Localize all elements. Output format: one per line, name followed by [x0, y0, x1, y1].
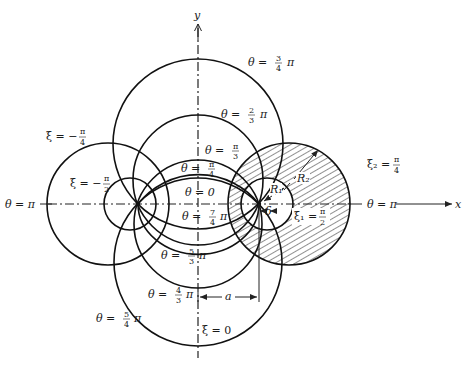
- svg-text:5: 5: [124, 310, 129, 319]
- svg-text:ξ = −: ξ = −: [70, 177, 102, 190]
- svg-text:2: 2: [249, 106, 254, 115]
- svg-text:θ =: θ =: [248, 56, 267, 69]
- y-axis-label: y: [193, 9, 201, 22]
- svg-text:4: 4: [176, 286, 181, 295]
- xi2-pi-4-label: ξ₂ = π 4: [367, 155, 400, 175]
- svg-text:π: π: [259, 108, 268, 121]
- svg-text:θ =: θ =: [182, 210, 201, 223]
- svg-text:ξ = −: ξ = −: [46, 130, 78, 143]
- theta-3-4-pi-label: θ = 3 4 π: [248, 54, 295, 73]
- svg-text:π: π: [104, 174, 109, 183]
- svg-text:π: π: [198, 249, 207, 262]
- svg-text:θ =: θ =: [161, 249, 180, 262]
- svg-text:4: 4: [209, 170, 214, 179]
- svg-text:4: 4: [124, 320, 129, 329]
- svg-text:5: 5: [189, 247, 194, 256]
- svg-text:4: 4: [276, 64, 281, 73]
- svg-text:4: 4: [80, 138, 85, 147]
- theta-4-3-pi-label: θ = 4 3 π: [148, 286, 194, 305]
- svg-text:3: 3: [176, 296, 181, 305]
- a-label: a: [225, 290, 232, 303]
- theta-5-4-pi-label: θ = 5 4 π: [96, 310, 142, 329]
- svg-text:2: 2: [320, 218, 325, 227]
- xi-neg-pi-2-label: ξ = − π 2: [70, 174, 110, 194]
- svg-text:θ =: θ =: [221, 108, 240, 121]
- svg-text:3: 3: [249, 116, 254, 125]
- left-focus: [136, 202, 140, 206]
- delta-label: δ: [265, 205, 272, 218]
- svg-text:3: 3: [189, 257, 194, 266]
- svg-text:π: π: [133, 312, 142, 325]
- bipolar-diagram: y x θ = 3 4 π θ = 2 3 π θ = π 3 θ = π 4 …: [0, 0, 471, 370]
- theta-pi-right-label: θ = π: [367, 198, 398, 211]
- svg-text:ξ₂ =: ξ₂ =: [367, 158, 390, 171]
- xi-neg-pi-4-label: ξ = − π 4: [46, 127, 86, 147]
- theta-pi-left-label: θ = π: [5, 198, 36, 211]
- svg-text:3: 3: [233, 152, 238, 161]
- svg-text:3: 3: [276, 54, 281, 63]
- svg-text:θ =: θ =: [148, 288, 167, 301]
- svg-text:π: π: [394, 155, 399, 164]
- svg-text:π: π: [286, 56, 295, 69]
- r2-label: R₂: [296, 172, 310, 185]
- svg-text:π: π: [320, 207, 325, 216]
- svg-text:π: π: [219, 210, 228, 223]
- diagram-svg: y x θ = 3 4 π θ = 2 3 π θ = π 3 θ = π 4 …: [0, 0, 471, 370]
- svg-text:4: 4: [210, 218, 215, 227]
- theta-0-label: θ = 0: [185, 186, 215, 199]
- svg-text:2: 2: [104, 185, 109, 194]
- svg-text:θ =: θ =: [96, 312, 115, 325]
- xi-0-label: ξ = 0: [202, 324, 231, 337]
- r1-label: R₁: [269, 183, 283, 196]
- svg-text:ξ₁ =: ξ₁ =: [294, 210, 317, 223]
- svg-text:π: π: [185, 288, 194, 301]
- svg-text:π: π: [80, 127, 85, 136]
- theta-5-3-pi-label: θ = 5 3 π: [161, 247, 207, 266]
- xi1-pi-2-label: ξ₁ = π 2: [292, 207, 330, 227]
- svg-text:7: 7: [210, 208, 215, 217]
- svg-text:θ =: θ =: [181, 162, 200, 175]
- svg-text:π: π: [209, 160, 214, 169]
- x-axis-label: x: [455, 198, 462, 211]
- svg-text:4: 4: [394, 166, 399, 175]
- svg-text:θ =: θ =: [205, 144, 224, 157]
- svg-text:π: π: [233, 142, 238, 151]
